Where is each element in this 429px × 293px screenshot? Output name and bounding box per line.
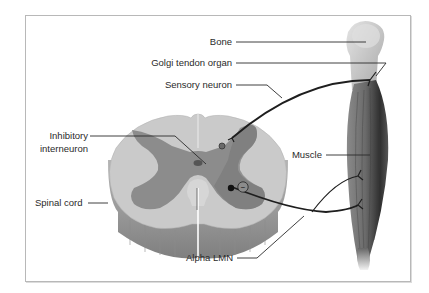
- label-spinal-cord: Spinal cord: [35, 197, 83, 209]
- muscle-bone: [346, 21, 388, 270]
- svg-text:−: −: [241, 183, 246, 192]
- label-sensory-neuron: Sensory neuron: [150, 79, 232, 91]
- sensory-synapse-icon: [219, 143, 225, 149]
- label-inhibitory-line1: Inhibitory: [30, 130, 88, 142]
- label-golgi-tendon-organ: Golgi tendon organ: [134, 57, 232, 69]
- alpha-lmn-soma-icon: [228, 185, 234, 191]
- label-muscle: Muscle: [280, 149, 322, 161]
- label-alpha-lmn: Alpha LMN: [170, 252, 233, 264]
- label-bone: Bone: [200, 36, 232, 48]
- label-inhibitory-line2: interneuron: [30, 143, 88, 155]
